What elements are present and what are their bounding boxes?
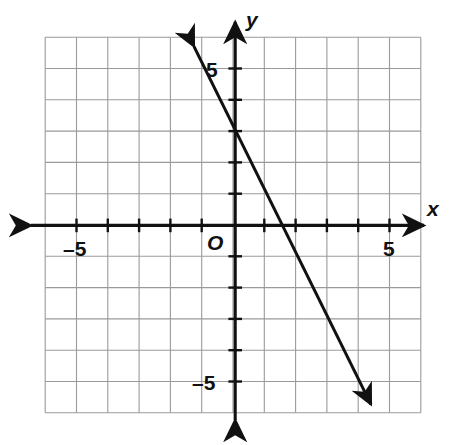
- origin-label: O: [207, 231, 223, 254]
- y-axis-label: y: [245, 8, 259, 31]
- y-tick-label-positive-5: 5: [206, 58, 218, 81]
- x-tick-label-negative-5: –5: [63, 237, 87, 260]
- x-axis-label: x: [426, 197, 440, 220]
- coordinate-plane: –5 5 5 –5 O x y: [0, 0, 459, 445]
- x-tick-label-positive-5: 5: [383, 237, 395, 260]
- graph-container: –5 5 5 –5 O x y: [0, 0, 459, 445]
- axes: [31, 22, 424, 420]
- y-tick-label-negative-5: –5: [192, 371, 216, 394]
